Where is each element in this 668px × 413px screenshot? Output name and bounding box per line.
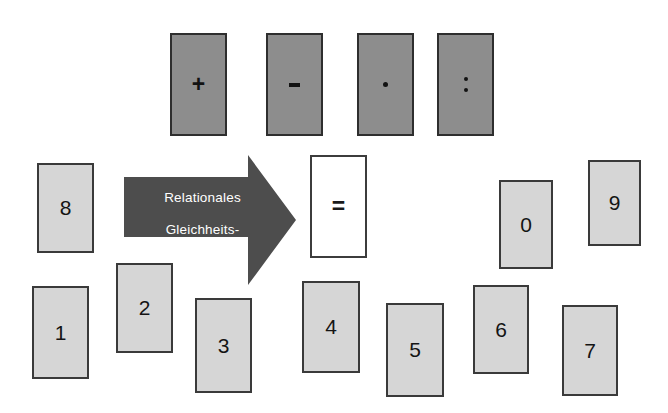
number-card-label: 6: [495, 318, 507, 342]
equals-card[interactable]: =: [310, 155, 367, 258]
operator-card-plus[interactable]: +: [170, 33, 227, 136]
number-card-label: 7: [584, 339, 596, 363]
number-card-1[interactable]: 1: [32, 286, 89, 379]
divide-icon: [464, 77, 468, 92]
number-card-0[interactable]: 0: [499, 180, 553, 269]
plus-icon: +: [192, 71, 205, 98]
number-card-label: 5: [409, 338, 421, 362]
number-card-label: 9: [609, 191, 621, 215]
number-card-label: 8: [60, 196, 72, 220]
number-card-6[interactable]: 6: [473, 285, 529, 374]
number-card-label: 0: [520, 213, 532, 237]
number-card-7[interactable]: 7: [562, 305, 618, 396]
operator-card-multiply[interactable]: [357, 33, 414, 136]
number-card-9[interactable]: 9: [588, 160, 641, 246]
operator-card-minus[interactable]: [266, 33, 323, 136]
number-card-label: 3: [218, 334, 230, 358]
number-card-label: 4: [325, 315, 337, 339]
equals-sign: =: [332, 193, 345, 220]
figure-canvas: + Relationales Gleichheits- verständnis …: [0, 0, 668, 413]
number-card-label: 2: [139, 296, 151, 320]
operator-card-divide[interactable]: [437, 33, 494, 136]
number-card-label: 1: [55, 321, 67, 345]
arrow-label-line-1: Relationales: [140, 190, 265, 206]
number-card-8[interactable]: 8: [37, 163, 94, 253]
number-card-4[interactable]: 4: [302, 281, 360, 373]
minus-icon: [289, 83, 300, 87]
arrow-label-line-2: Gleichheits-: [140, 222, 265, 238]
number-card-2[interactable]: 2: [116, 263, 173, 353]
number-card-5[interactable]: 5: [386, 303, 444, 397]
multiply-icon: [383, 82, 388, 87]
number-card-3[interactable]: 3: [195, 298, 252, 393]
